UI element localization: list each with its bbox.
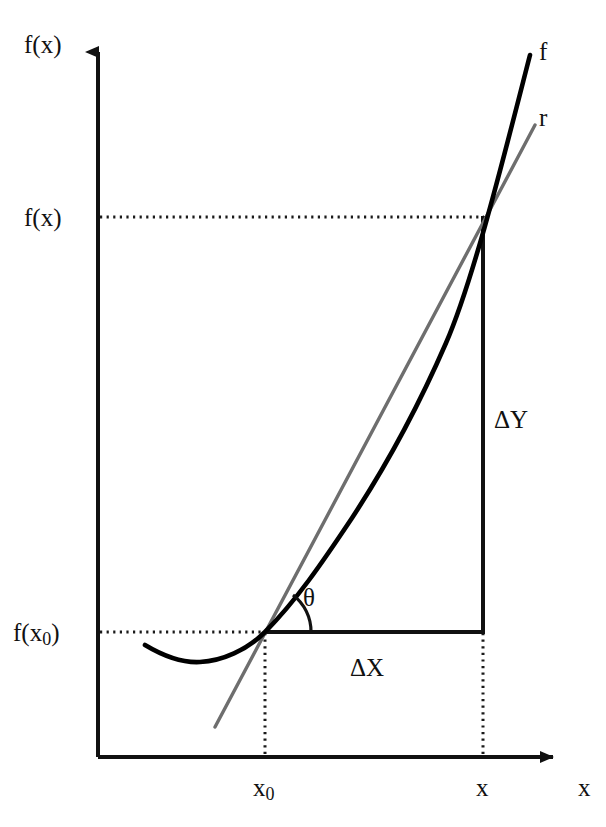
- guide-lines-group: [100, 217, 484, 756]
- y-tick-label-fx0-subscript: 0: [42, 629, 51, 649]
- y-tick-label-fx: f(x): [24, 205, 61, 230]
- curve-label-f: f: [539, 39, 547, 64]
- x-tick-label-x: x: [476, 775, 489, 800]
- delta-y-label: ΔY: [494, 407, 528, 432]
- y-axis-label: f(x): [24, 32, 61, 57]
- y-tick-label-fx0: f(x0): [13, 620, 59, 648]
- y-tick-label-fx0-suffix: ): [51, 619, 59, 646]
- secant-label-r: r: [539, 105, 547, 130]
- theta-label: θ: [303, 585, 315, 610]
- x-tick-label-x0: x0: [253, 775, 275, 803]
- x-tick-label-x0-subscript: 0: [266, 784, 275, 804]
- delta-x-label: ΔX: [350, 655, 384, 680]
- x-axis-label: x: [578, 775, 591, 800]
- x-tick-label-x0-base: x: [253, 774, 266, 801]
- derivative-diagram: f(x) f(x) f(x0) f r ΔY ΔX θ x0 x x: [0, 0, 606, 827]
- function-curve-f: [145, 55, 530, 662]
- y-tick-label-fx0-prefix: f(x: [13, 619, 42, 646]
